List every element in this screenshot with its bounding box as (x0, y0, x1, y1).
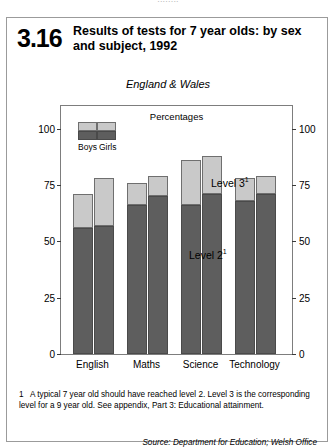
y-tick-mark-left-50 (57, 241, 61, 242)
segment-level-3 (73, 194, 93, 228)
y-tick-label-right-0: 0 (299, 349, 305, 360)
footnote-text: A typical 7 year old should have reached… (19, 390, 310, 410)
segment-level-2 (181, 205, 201, 354)
legend-swatch-boys (78, 122, 97, 140)
footnote: 1 A typical 7 year old should have reach… (19, 390, 315, 411)
segment-level-3 (148, 176, 168, 196)
y-tick-mark-right-75 (292, 185, 296, 186)
segment-level-2 (73, 228, 93, 354)
plot-area: Percentages 00252550507575100100 Boys Gi… (60, 105, 293, 355)
annotation-level-2-text: Level 2 (189, 249, 223, 261)
bar-technology-girls (256, 176, 276, 354)
cut-off-text-fragment: ........ (0, 0, 336, 13)
bar-english-girls (94, 178, 114, 354)
y-tick-mark-right-0 (292, 354, 296, 355)
segment-level-2 (127, 205, 147, 354)
y-tick-label-right-75: 75 (299, 179, 310, 190)
annotation-level-2: Level 21 (189, 248, 227, 261)
segment-level-2 (94, 226, 114, 355)
legend-swatch-girls (97, 122, 116, 140)
legend-swatch-boys-level3 (78, 122, 97, 131)
y-tick-mark-left-0 (57, 354, 61, 355)
source-line: Source: Department for Education; Welsh … (142, 438, 317, 447)
y-tick-label-left-25: 25 (44, 292, 55, 303)
x-axis-label-science: Science (183, 359, 219, 370)
figure-number: 3.16 (17, 24, 62, 53)
legend-label-girls: Girls (99, 142, 116, 152)
legend-label-boys: Boys (78, 142, 97, 152)
y-tick-mark-left-25 (57, 298, 61, 299)
segment-level-3 (181, 160, 201, 205)
bar-technology-boys (235, 178, 255, 354)
segment-level-2 (148, 196, 168, 354)
y-tick-mark-right-100 (292, 129, 296, 130)
y-tick-label-right-100: 100 (299, 123, 316, 134)
x-axis-label-maths: Maths (133, 359, 160, 370)
segment-level-3 (256, 176, 276, 194)
figure-title: Results of tests for 7 year olds: by sex… (73, 24, 311, 54)
annotation-level-2-marker: 1 (223, 248, 227, 255)
figure-header: 3.16 Results of tests for 7 year olds: b… (7, 22, 327, 68)
annotation-level-3-marker: 1 (245, 176, 249, 183)
y-tick-label-left-75: 75 (44, 179, 55, 190)
y-tick-label-right-25: 25 (299, 292, 310, 303)
annotation-level-3-text: Level 3 (211, 177, 245, 189)
y-tick-mark-left-75 (57, 185, 61, 186)
y-tick-label-left-50: 50 (44, 236, 55, 247)
legend-swatch-girls-level3 (97, 122, 116, 131)
chart-container: England & Wales Percentages 002525505075… (7, 78, 329, 378)
chart-unit-label: Percentages (61, 111, 292, 122)
figure-panel: 3.16 Results of tests for 7 year olds: b… (6, 17, 328, 442)
legend-swatch-boys-level2 (78, 131, 97, 140)
segment-level-3 (94, 178, 114, 225)
y-tick-mark-right-50 (292, 241, 296, 242)
legend-swatch-girls-level2 (97, 131, 116, 140)
bar-english-boys (73, 194, 93, 354)
x-axis-label-technology: Technology (229, 359, 280, 370)
bar-maths-boys (127, 183, 147, 354)
bar-maths-girls (148, 176, 168, 354)
y-tick-label-left-100: 100 (38, 123, 55, 134)
y-tick-label-right-50: 50 (299, 236, 310, 247)
annotation-level-3: Level 31 (211, 176, 249, 189)
x-axis-label-english: English (76, 359, 109, 370)
y-tick-label-left-0: 0 (49, 349, 55, 360)
segment-level-2 (235, 201, 255, 354)
footnote-marker: 1 (19, 390, 24, 401)
y-tick-mark-right-25 (292, 298, 296, 299)
segment-level-2 (202, 194, 222, 354)
y-tick-mark-left-100 (57, 129, 61, 130)
segment-level-2 (256, 194, 276, 354)
chart-subtitle-region: England & Wales (7, 78, 329, 90)
cut-off-text: ........ (0, 0, 336, 4)
segment-level-3 (127, 183, 147, 206)
